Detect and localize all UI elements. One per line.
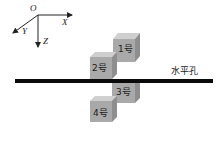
origin-label: O <box>30 4 37 13</box>
hole-label: 水平孔 <box>171 67 198 76</box>
cube-3-label: 3号 <box>116 88 131 97</box>
y-axis-label: Y <box>22 27 27 36</box>
z-axis-label: Z <box>43 37 48 46</box>
cube-1-label: 1号 <box>118 45 133 54</box>
cube-4-label: 4号 <box>93 109 108 118</box>
x-axis-label: X <box>62 18 68 27</box>
cube-2-label: 2号 <box>92 64 107 73</box>
horizontal-hole <box>15 79 213 83</box>
